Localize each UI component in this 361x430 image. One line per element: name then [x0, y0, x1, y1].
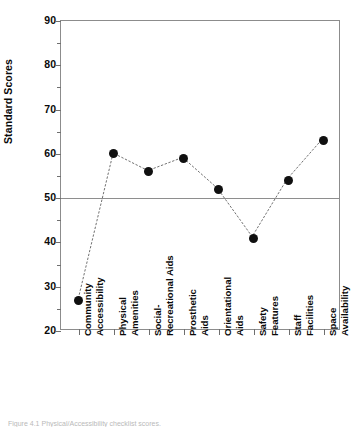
data-point-marker[interactable] [284, 176, 293, 185]
x-tick-label: ProstheticAids [187, 289, 210, 336]
x-tick-label: SpaceAvailability [327, 286, 350, 336]
y-tick-major [55, 110, 61, 111]
y-tick-minor [57, 309, 61, 310]
y-tick-label: 50 [30, 191, 56, 203]
y-tick-label: 70 [30, 103, 56, 115]
x-tick-label-line1: Physical [117, 290, 129, 336]
y-tick-major [55, 154, 61, 155]
x-tick-mark [149, 329, 150, 335]
x-tick-label-line2: Amenities [128, 290, 140, 336]
x-tick-label: CommunityAccessibility [82, 277, 105, 336]
x-tick-label-line2: Aids [233, 277, 245, 336]
x-tick-label-line2: Availability [338, 286, 350, 336]
x-tick-label-line1: Space [327, 286, 339, 336]
y-tick-minor [57, 43, 61, 44]
y-tick-major [55, 198, 61, 199]
x-tick-label-line1: Community [82, 277, 94, 336]
x-tick-label: StaffFacilities [292, 295, 315, 336]
x-tick-mark [79, 329, 80, 335]
y-axis-tick-labels: 2030405060708090 [28, 0, 56, 430]
x-tick-label-line1: Social- [152, 255, 164, 336]
x-tick-label-line2: Recreational Aids [163, 255, 175, 336]
data-point-marker[interactable] [249, 234, 258, 243]
x-tick-label-line2: Aids [198, 289, 210, 336]
x-tick-mark [114, 329, 115, 335]
x-tick-mark [184, 329, 185, 335]
y-tick-minor [57, 220, 61, 221]
x-tick-label-line2: Features [268, 296, 280, 336]
y-tick-label: 30 [30, 280, 56, 292]
y-tick-major [55, 242, 61, 243]
y-tick-major [55, 287, 61, 288]
x-tick-label: Social-Recreational Aids [152, 255, 175, 336]
x-tick-label-line1: Staff [292, 295, 304, 336]
y-tick-minor [57, 87, 61, 88]
y-tick-label: 80 [30, 58, 56, 70]
y-tick-major [55, 331, 61, 332]
y-tick-label: 90 [30, 14, 56, 26]
x-tick-mark [254, 329, 255, 335]
y-axis-title: Standard Scores [2, 24, 14, 144]
y-tick-minor [57, 265, 61, 266]
x-tick-label-line2: Accessibility [93, 277, 105, 336]
y-tick-label: 20 [30, 324, 56, 336]
x-tick-mark [324, 329, 325, 335]
data-point-marker[interactable] [144, 167, 153, 176]
x-tick-label: SafetyFeatures [257, 296, 280, 336]
x-tick-label-line1: Prosthetic [187, 289, 199, 336]
y-tick-minor [57, 132, 61, 133]
x-tick-mark [219, 329, 220, 335]
x-axis-tick-labels: CommunityAccessibilityPhysicalAmenitiesS… [60, 336, 340, 428]
y-tick-label: 60 [30, 147, 56, 159]
x-tick-label: OrientationalAids [222, 277, 245, 336]
data-point-marker[interactable] [214, 185, 223, 194]
data-point-marker[interactable] [179, 154, 188, 163]
figure-caption: Figure 4.1 Physical/Accessibility checkl… [8, 420, 358, 427]
x-tick-mark [289, 329, 290, 335]
y-tick-minor [57, 176, 61, 177]
x-tick-label-line1: Safety [257, 296, 269, 336]
y-tick-major [55, 65, 61, 66]
y-tick-label: 40 [30, 235, 56, 247]
data-point-marker[interactable] [319, 136, 328, 145]
y-tick-major [55, 21, 61, 22]
figure-container: Standard Scores 2030405060708090 Communi… [0, 0, 361, 430]
x-tick-label-line1: Orientational [222, 277, 234, 336]
x-tick-label: PhysicalAmenities [117, 290, 140, 336]
x-tick-label-line2: Facilities [303, 295, 315, 336]
